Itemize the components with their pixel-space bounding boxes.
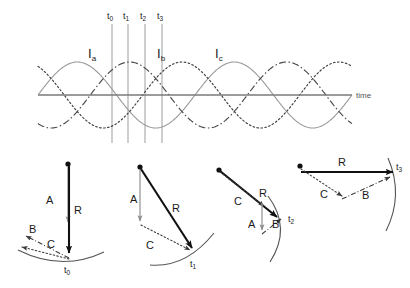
- vector-label-c-t0: C: [47, 238, 55, 250]
- vector-r-t1: [141, 169, 192, 248]
- panel-time-label-t0: t0: [64, 265, 71, 276]
- origin-dot-t0: [65, 161, 70, 166]
- time-marker-t1: t1: [123, 11, 130, 22]
- time-gridlines: [112, 24, 162, 143]
- vector-label-r-t1: R: [172, 202, 180, 214]
- vector-label-b-t0: B: [29, 223, 36, 235]
- panel-time-label-t3: t3: [396, 162, 403, 173]
- vector-label-c-t1: C: [146, 239, 154, 251]
- vector-label-r-t3: R: [338, 156, 346, 168]
- time-marker-labels: t0 t1 t2 t3: [107, 11, 164, 22]
- vector-label-a-t0: A: [46, 194, 54, 206]
- phase-labels: Ia Ib Ic: [88, 46, 223, 63]
- three-phase-field-diagram: t0 t1 t2 t3 time: [0, 0, 410, 288]
- vector-panel-t0: A R B C t0: [18, 161, 104, 276]
- vector-label-b-t2: B: [272, 218, 279, 230]
- vector-label-c-t3: C: [320, 188, 328, 200]
- arc-path-t0: [18, 250, 104, 262]
- vector-label-c-t2: C: [234, 195, 242, 207]
- vector-label-a-t2: A: [248, 218, 256, 230]
- vector-r-t2: [220, 171, 277, 217]
- origin-dot-t3: [297, 163, 302, 168]
- phase-label-ia: Ia: [88, 46, 97, 63]
- vector-panel-t1: A R C t1: [130, 164, 214, 270]
- time-marker-t0: t0: [107, 11, 114, 22]
- vector-label-r-t2: R: [259, 187, 267, 199]
- vector-label-r-t0: R: [74, 204, 82, 216]
- waveform-section: t0 t1 t2 t3 time: [38, 11, 372, 143]
- panel-time-label-t1: t1: [190, 259, 197, 270]
- phase-label-ib: Ib: [157, 46, 166, 63]
- vector-panel-t2: R C A B t2: [216, 167, 294, 262]
- time-axis-label: time: [356, 91, 372, 100]
- panel-time-label-t2: t2: [288, 214, 295, 225]
- arc-path-t1: [150, 233, 214, 265]
- vector-c-t0: [22, 247, 69, 259]
- diagram-canvas: t0 t1 t2 t3 time: [0, 0, 410, 288]
- vector-label-b-t3: B: [362, 189, 369, 201]
- vector-panel-t3: R C B t3: [297, 156, 402, 231]
- arc-path-t3: [386, 158, 396, 231]
- phase-label-ic: Ic: [215, 46, 223, 63]
- vector-label-a-t1: A: [130, 193, 138, 205]
- time-marker-t2: t2: [140, 11, 147, 22]
- time-marker-t3: t3: [157, 11, 164, 22]
